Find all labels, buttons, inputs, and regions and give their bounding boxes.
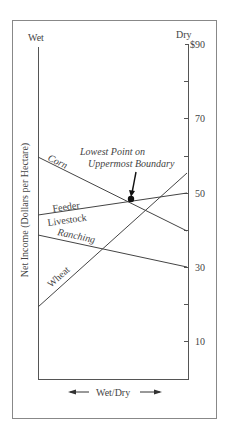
annotation-arrow [132,172,136,193]
wheat-label: Wheat [45,264,72,290]
x-axis-label: Wet/Dry [96,387,130,398]
wet-label: Wet [28,32,44,43]
arrow-left-icon [68,390,76,395]
annotation-arrowhead [129,190,135,197]
feeder-label: Feeder [52,199,81,214]
lowest-point-marker [128,196,134,202]
annotation-line-2: Uppermost Boundary [88,158,175,169]
dry-label: Dry [176,29,192,40]
tick-label-30: 30 [195,262,205,273]
livestock-label: Livestock [47,212,88,228]
annotation-line-1: Lowest Point on [79,146,145,157]
corn-label: Corn [46,152,69,171]
arrow-right-icon [154,390,162,395]
tick-label-70: 70 [195,113,205,124]
tick-label-50: 50 [195,188,205,199]
chart-svg: $90 70 50 30 10 Wet Dry Net Income (Doll… [0,0,226,432]
ranching-label: Ranching [56,226,97,245]
y-axis-label: Net Income (Dollars per Hectare) [19,143,31,277]
tick-label-10: 10 [195,336,205,347]
tick-label-90: $90 [190,39,205,50]
